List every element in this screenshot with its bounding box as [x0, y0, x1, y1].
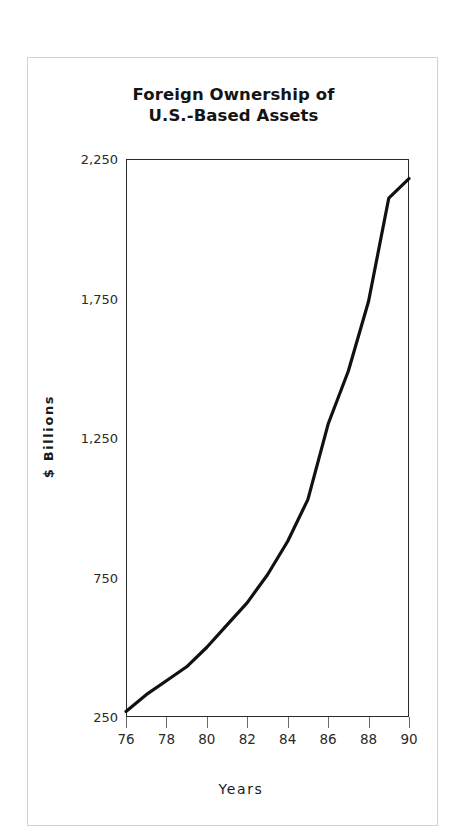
data-line-chart: [126, 159, 409, 717]
x-tick-label: 86: [308, 731, 348, 747]
x-tick-mark: [328, 717, 329, 728]
x-tick-label: 88: [349, 731, 389, 747]
x-tick-mark: [247, 717, 248, 728]
y-tick-label: 750: [34, 570, 126, 585]
x-tick-label: 82: [227, 731, 267, 747]
x-tick-label: 80: [187, 731, 227, 747]
y-tick-label: 250: [34, 710, 126, 725]
x-tick-mark: [207, 717, 208, 728]
x-tick-mark: [369, 717, 370, 728]
x-tick-label: 76: [106, 731, 146, 747]
x-tick-mark: [166, 717, 167, 728]
chart-title: Foreign Ownership of U.S.-Based Assets: [28, 84, 439, 126]
x-axis-ticks: 7678808284868890: [126, 717, 409, 769]
y-axis-tick-labels: 2,250 1,750 1,250 750 250: [28, 159, 126, 717]
x-tick-mark: [409, 717, 410, 728]
chart-title-line-2: U.S.-Based Assets: [28, 105, 439, 126]
x-axis-title: Years: [99, 781, 383, 797]
figure-frame: Foreign Ownership of U.S.-Based Assets $…: [27, 57, 438, 826]
y-tick-label: 1,250: [34, 431, 126, 446]
chart-title-line-1: Foreign Ownership of: [28, 84, 439, 105]
y-tick-label: 1,750: [34, 291, 126, 306]
x-tick-label: 84: [268, 731, 308, 747]
plot-area: [126, 159, 409, 717]
data-series-line: [126, 179, 409, 712]
x-tick-label: 90: [389, 731, 429, 747]
y-tick-label: 2,250: [34, 152, 126, 167]
x-tick-label: 78: [146, 731, 186, 747]
x-tick-mark: [288, 717, 289, 728]
x-tick-mark: [126, 717, 127, 728]
